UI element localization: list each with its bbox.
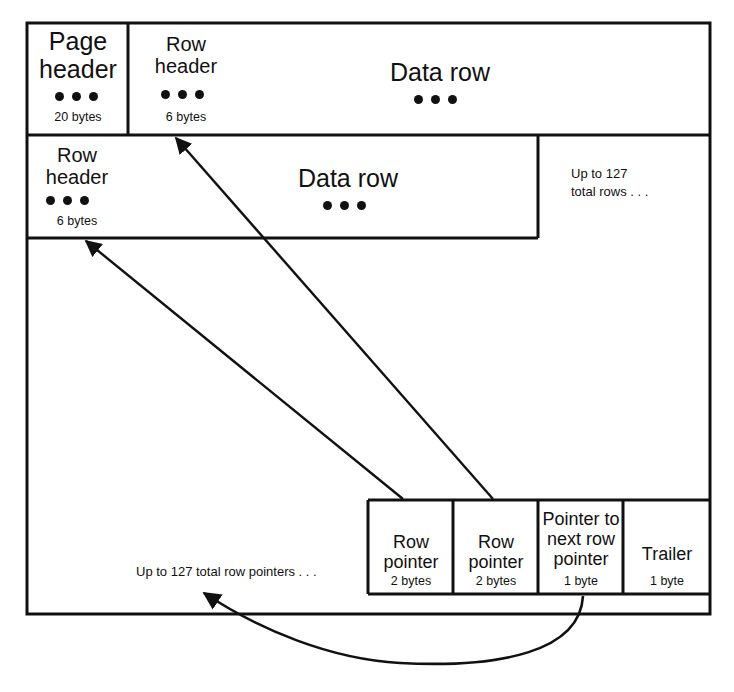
row2-data-row-label: Data row (258, 164, 438, 192)
row1-data-row-label: Data row (350, 58, 530, 86)
row2-row-header-label: Row header (22, 144, 132, 189)
trailer-label: Trailer (626, 544, 708, 564)
row1-row-header-ellipsis-icon (161, 90, 204, 99)
total-rows-note: Up to 127 total rows . . . (571, 165, 711, 200)
page-header-ellipsis-icon (55, 92, 98, 101)
row1-data-row-ellipsis-icon (414, 95, 457, 104)
row2-data-row-ellipsis-icon (323, 201, 366, 210)
pointer-to-next-row-pointer-size: 1 byte (541, 574, 621, 588)
row1-row-header-label: Row header (138, 33, 234, 78)
trailer-size: 1 byte (626, 574, 708, 588)
row-pointer-2-size: 2 bytes (456, 574, 536, 588)
row-pointer-1-label: Row pointer (371, 532, 451, 572)
page-header-label: Page header (30, 27, 126, 83)
row2-row-header-ellipsis-icon (46, 196, 89, 205)
row2-row-header-size: 6 bytes (22, 214, 132, 228)
pointer-to-next-row-pointer-label: Pointer to next row pointer (540, 509, 622, 569)
diagram-linework (0, 0, 734, 692)
row1-row-header-size: 6 bytes (138, 110, 234, 124)
data-page-diagram: Page header 20 bytes Row header 6 bytes … (0, 0, 734, 692)
page-header-size: 20 bytes (30, 110, 126, 124)
total-row-pointers-note: Up to 127 total row pointers . . . (136, 563, 386, 581)
row-pointer-2-label: Row pointer (456, 532, 536, 572)
row-pointer-1-size: 2 bytes (371, 574, 451, 588)
